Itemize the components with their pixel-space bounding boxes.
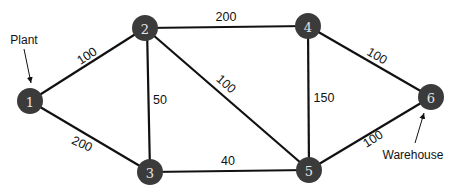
edge-4-5 (308, 26, 309, 170)
plant-arrow-icon (24, 49, 31, 83)
node-4: 4 (295, 13, 321, 39)
svg-text:4: 4 (304, 20, 312, 35)
edge-3-5 (150, 170, 309, 172)
node-6: 6 (418, 84, 444, 110)
edge-2-3 (147, 28, 150, 172)
edge-weight-2-5: 100 (214, 72, 239, 96)
warehouse-label: Warehouse (383, 148, 444, 162)
edge-weight-3-5: 40 (221, 154, 235, 168)
warehouse-arrow-icon (415, 113, 424, 143)
svg-text:3: 3 (146, 166, 154, 181)
edge-weight-2-4: 200 (216, 10, 237, 24)
svg-text:5: 5 (305, 164, 313, 179)
edge-weight-2-3: 50 (153, 93, 167, 107)
edge-2-5 (145, 28, 309, 170)
edge-1-3 (30, 101, 150, 172)
node-2: 2 (132, 15, 158, 41)
edge-weight-1-2: 100 (74, 44, 99, 67)
svg-text:1: 1 (26, 95, 34, 110)
edge-2-4 (145, 26, 308, 28)
edge-weight-4-6: 100 (364, 45, 389, 68)
network-diagram: 100 200 50 200 100 150 40 100 100 Plant … (0, 0, 458, 193)
svg-text:6: 6 (427, 91, 435, 106)
node-5: 5 (296, 157, 322, 183)
svg-text:2: 2 (141, 22, 149, 37)
plant-label: Plant (10, 33, 38, 47)
node-3: 3 (137, 159, 163, 185)
edge-1-2 (30, 28, 145, 101)
node-1: 1 (17, 88, 43, 114)
edge-4-6 (308, 26, 431, 97)
edge-weight-4-5: 150 (314, 91, 335, 105)
